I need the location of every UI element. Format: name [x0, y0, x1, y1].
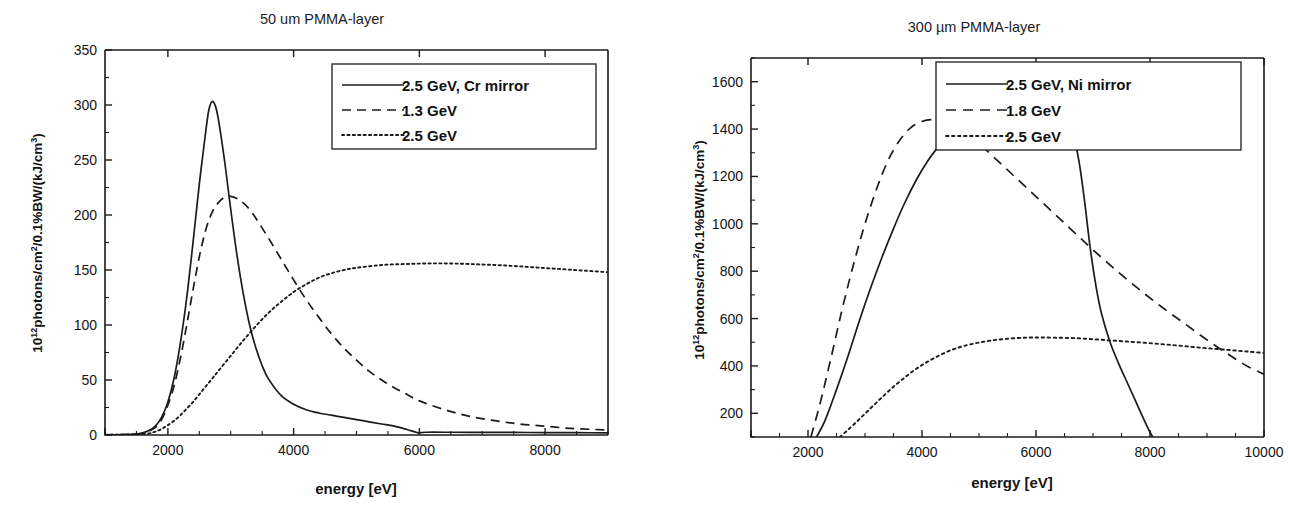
y-tick-label: 1200 — [712, 168, 743, 184]
y-axis-title: 1012photons/cm2/0.1%BW/(kJ/cm3) — [29, 133, 45, 353]
y-title-exp1: 12 — [691, 335, 701, 345]
legend-label: 2.5 GeV, Ni mirror — [1006, 76, 1132, 93]
svg-text:1012photons/cm2/0.1%BW/(kJ/cm3: 1012photons/cm2/0.1%BW/(kJ/cm3) — [691, 140, 707, 360]
series-line — [811, 120, 1264, 437]
x-tick-label: 2000 — [792, 444, 823, 460]
series-line — [840, 337, 1264, 437]
y-title-exp1: 12 — [29, 328, 39, 338]
y-tick-label: 1400 — [712, 121, 743, 137]
x-tick-label: 8000 — [530, 442, 561, 458]
legend-right: 2.5 GeV, Ni mirror1.8 GeV2.5 GeV — [936, 62, 1241, 150]
y-title-base: 10 — [692, 345, 707, 360]
x-tick-label: 6000 — [1020, 444, 1051, 460]
chart-svg-left: 50 um PMMA-layer 1012photons/cm2/0.1%BW/… — [0, 0, 644, 514]
y-tick-label: 0 — [89, 427, 97, 443]
y-title-mid: photons/cm — [692, 258, 707, 335]
x-tick-label: 4000 — [906, 444, 937, 460]
y-tick-label: 250 — [74, 152, 98, 168]
y-tick-label: 400 — [720, 358, 744, 374]
y-title-close: ) — [30, 133, 45, 138]
y-tick-label: 1000 — [712, 216, 743, 232]
series-line — [817, 105, 1153, 437]
series-group-right — [811, 105, 1264, 437]
y-tick-label: 350 — [74, 42, 98, 58]
series-line — [105, 263, 608, 434]
y-title-base: 10 — [30, 338, 45, 353]
y-tick-label: 1600 — [712, 74, 743, 90]
y-tick-label: 200 — [720, 405, 744, 421]
y-title-mid: photons/cm — [30, 251, 45, 328]
x-tick-label: 10000 — [1245, 444, 1284, 460]
x-tick-label: 2000 — [152, 442, 183, 458]
y-tick-label: 50 — [81, 372, 97, 388]
x-axis-title: energy [eV] — [315, 480, 397, 497]
y-title-tail: /0.1%BW/(kJ/cm — [692, 150, 707, 254]
y-title-close: ) — [692, 140, 707, 145]
series-group-left — [105, 101, 608, 434]
chart-panel-left: 50 um PMMA-layer 1012photons/cm2/0.1%BW/… — [0, 0, 644, 514]
x-tick-label: 4000 — [278, 442, 309, 458]
y-axis-title: 1012photons/cm2/0.1%BW/(kJ/cm3) — [691, 140, 707, 360]
legend-label: 2.5 GeV, Cr mirror — [402, 77, 529, 94]
x-axis-title: energy [eV] — [971, 474, 1053, 491]
series-line — [105, 196, 608, 435]
y-tick-label: 300 — [74, 97, 98, 113]
x-tick-label: 8000 — [1134, 444, 1165, 460]
legend-label: 2.5 GeV — [1006, 128, 1061, 145]
legend-left: 2.5 GeV, Cr mirror1.3 GeV2.5 GeV — [332, 64, 596, 149]
chart-svg-right: 300 µm PMMA-layer 1012photons/cm2/0.1%BW… — [644, 0, 1289, 514]
y-tick-label: 600 — [720, 311, 744, 327]
y-tick-label: 150 — [74, 262, 98, 278]
y-tick-label: 800 — [720, 263, 744, 279]
legend-label: 2.5 GeV — [402, 127, 457, 144]
figure-root: 50 um PMMA-layer 1012photons/cm2/0.1%BW/… — [0, 0, 1289, 514]
legend-label: 1.3 GeV — [402, 102, 457, 119]
y-tick-label: 100 — [74, 317, 98, 333]
chart-title: 50 um PMMA-layer — [260, 11, 384, 27]
y-title-tail: /0.1%BW/(kJ/cm — [30, 143, 45, 247]
svg-text:1012photons/cm2/0.1%BW/(kJ/cm3: 1012photons/cm2/0.1%BW/(kJ/cm3) — [29, 133, 45, 353]
y-tick-label: 200 — [74, 207, 98, 223]
x-tick-label: 6000 — [404, 442, 435, 458]
chart-panel-right: 300 µm PMMA-layer 1012photons/cm2/0.1%BW… — [644, 0, 1288, 514]
legend-label: 1.8 GeV — [1006, 102, 1061, 119]
chart-title: 300 µm PMMA-layer — [908, 19, 1041, 35]
